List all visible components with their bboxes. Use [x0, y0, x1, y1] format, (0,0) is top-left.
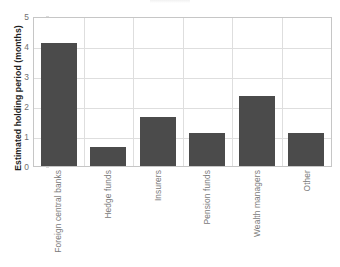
- bar[interactable]: [288, 133, 324, 166]
- x-tick-label: Insurers: [153, 170, 163, 201]
- bar[interactable]: [189, 133, 225, 166]
- x-label-cell: Foreign central banks: [33, 170, 83, 265]
- x-tick-label: Hedge funds: [103, 170, 113, 219]
- x-tick-label: Wealth managers: [252, 170, 262, 237]
- x-label-cell: Other: [282, 170, 332, 265]
- plot-area: [33, 17, 332, 167]
- x-label-cell: Hedge funds: [83, 170, 133, 265]
- bars-layer: [34, 18, 331, 166]
- x-label-cell: Pension funds: [182, 170, 232, 265]
- y-tick-label: 4: [24, 42, 29, 52]
- y-tick-label: 0: [24, 162, 29, 172]
- y-tick-label: 3: [24, 72, 29, 82]
- x-axis-category-labels: Foreign central banksHedge fundsInsurers…: [33, 170, 332, 265]
- bar[interactable]: [90, 147, 126, 166]
- x-label-cell: Wealth managers: [232, 170, 282, 265]
- bar-cell: [34, 18, 84, 166]
- bar[interactable]: [239, 96, 275, 166]
- y-tick-label: 1: [24, 132, 29, 142]
- bar-cell: [183, 18, 233, 166]
- bar-cell: [84, 18, 134, 166]
- x-label-cell: Insurers: [133, 170, 183, 265]
- bar[interactable]: [140, 117, 176, 167]
- clipped-title-remnant: [150, 0, 190, 3]
- x-tick-label: Foreign central banks: [53, 170, 63, 253]
- y-axis-tick-labels: 012345: [16, 11, 29, 167]
- bar-cell: [232, 18, 282, 166]
- y-tick-label: 2: [24, 102, 29, 112]
- bar[interactable]: [41, 43, 77, 166]
- bar-cell: [133, 18, 183, 166]
- y-tick-label: 5: [24, 12, 29, 22]
- x-tick-label: Pension funds: [202, 170, 212, 224]
- bar-chart-figure: Estimated holding period (months) 012345…: [0, 0, 340, 267]
- x-tick-label: Other: [302, 170, 312, 191]
- bar-cell: [282, 18, 332, 166]
